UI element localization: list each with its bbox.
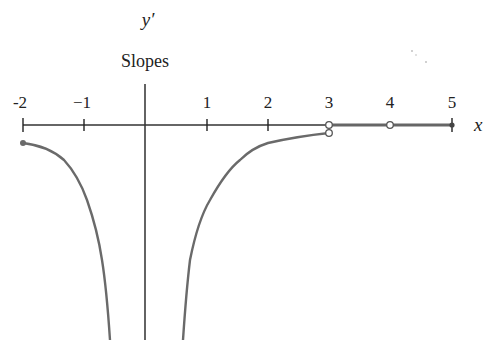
open-point-branch-end-3 [326, 130, 333, 137]
right-branch-curve [183, 133, 329, 340]
y-prime-label: y′ [140, 9, 155, 30]
slopes-chart: y′ Slopes x -2 −1 1 2 3 4 5 [0, 0, 489, 340]
tick-label-1: 1 [203, 93, 212, 112]
tick-label-2: 2 [264, 93, 273, 112]
tick-label-3: 3 [325, 93, 334, 112]
x-axis-label: x [473, 114, 483, 135]
open-point-axis-4 [387, 122, 394, 129]
tick-label-5: 5 [448, 93, 457, 112]
scan-specks [411, 50, 427, 63]
closed-point-axis-5 [449, 122, 454, 127]
tick-label-4: 4 [386, 93, 395, 112]
chart-title: Slopes [121, 51, 169, 71]
tick-label-neg1: −1 [73, 93, 91, 112]
closed-point-neg2 [20, 140, 26, 146]
left-branch-curve [23, 143, 110, 340]
tick-label-neg2: -2 [13, 93, 27, 112]
open-point-axis-3 [326, 122, 333, 129]
